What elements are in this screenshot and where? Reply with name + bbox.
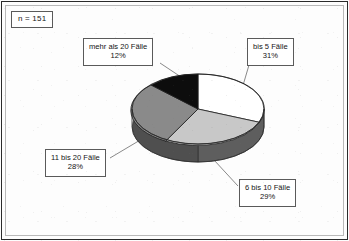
callout-mehr-als-20: mehr als 20 Fälle 12% bbox=[83, 38, 153, 66]
callout-percent: 12% bbox=[89, 51, 147, 60]
pie-chart-svg bbox=[125, 62, 271, 184]
sample-size-box: n = 151 bbox=[11, 11, 53, 28]
callout-label: mehr als 20 Fälle bbox=[89, 42, 147, 51]
pie-chart bbox=[125, 62, 271, 184]
sample-size-label: n = 151 bbox=[18, 14, 46, 23]
callout-6-bis-10: 6 bis 10 Fälle 29% bbox=[239, 179, 296, 207]
callout-percent: 28% bbox=[51, 162, 100, 171]
callout-label: 11 bis 20 Fälle bbox=[51, 153, 100, 162]
callout-label: bis 5 Fälle bbox=[253, 42, 288, 51]
chart-page: n = 151 bbox=[0, 0, 349, 241]
callout-percent: 31% bbox=[253, 51, 288, 60]
callout-bis-5: bis 5 Fälle 31% bbox=[247, 38, 294, 66]
callout-percent: 29% bbox=[245, 192, 290, 201]
callout-11-bis-20: 11 bis 20 Fälle 28% bbox=[45, 149, 106, 177]
callout-label: 6 bis 10 Fälle bbox=[245, 183, 290, 192]
